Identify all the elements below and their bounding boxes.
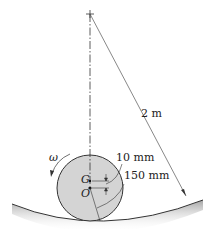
label-10mm: 10 mm [116, 152, 154, 163]
label-150mm: 150 mm [124, 170, 169, 181]
label-2m: 2 m [141, 108, 162, 119]
diagram-canvas [0, 0, 215, 229]
label-omega: ω [49, 152, 58, 163]
angular-velocity-arrowhead-icon [50, 170, 54, 177]
label-o: O [81, 188, 90, 199]
radius-arrowhead-icon [181, 189, 186, 196]
label-g: G [81, 174, 90, 185]
